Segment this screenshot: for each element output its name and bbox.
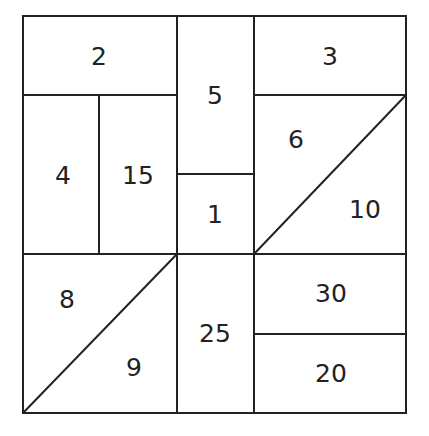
- region-label-2: 2: [91, 42, 107, 71]
- region-label-30: 30: [315, 279, 347, 308]
- region-labels: 2 5 3 4 15 1 6 10 8 9 25 30 20: [55, 42, 381, 388]
- diagonal-8-9: [23, 254, 177, 413]
- region-label-9: 9: [126, 353, 142, 382]
- partitioned-square-diagram: 2 5 3 4 15 1 6 10 8 9 25 30 20: [0, 0, 429, 436]
- region-label-1: 1: [207, 200, 223, 229]
- region-label-20: 20: [315, 359, 347, 388]
- region-label-15: 15: [122, 161, 154, 190]
- region-label-5: 5: [207, 81, 223, 110]
- region-label-4: 4: [55, 161, 71, 190]
- region-label-8: 8: [59, 285, 75, 314]
- diagonal-6-10: [254, 95, 406, 254]
- region-label-10: 10: [349, 195, 381, 224]
- region-label-3: 3: [322, 42, 338, 71]
- region-label-6: 6: [288, 125, 304, 154]
- region-label-25: 25: [199, 319, 231, 348]
